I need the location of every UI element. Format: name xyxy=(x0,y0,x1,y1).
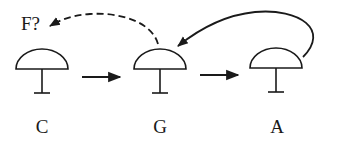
arrow-g-to-f-dashed-icon xyxy=(50,14,158,44)
neuron-g-label: G xyxy=(153,116,167,137)
neuron-g-dome-icon xyxy=(134,49,186,69)
neuron-a-dome-icon xyxy=(250,48,302,68)
unknown-f-label: F? xyxy=(21,13,40,34)
neuron-a-label: A xyxy=(270,116,284,137)
neuron-g xyxy=(134,49,186,93)
neuron-circuit-diagram: F? C G A xyxy=(0,0,344,142)
neuron-c xyxy=(16,49,68,93)
arrow-a-to-g-feedback-icon xyxy=(178,12,313,57)
neuron-c-label: C xyxy=(36,116,49,137)
neuron-a xyxy=(250,48,302,92)
neuron-c-dome-icon xyxy=(16,49,68,69)
